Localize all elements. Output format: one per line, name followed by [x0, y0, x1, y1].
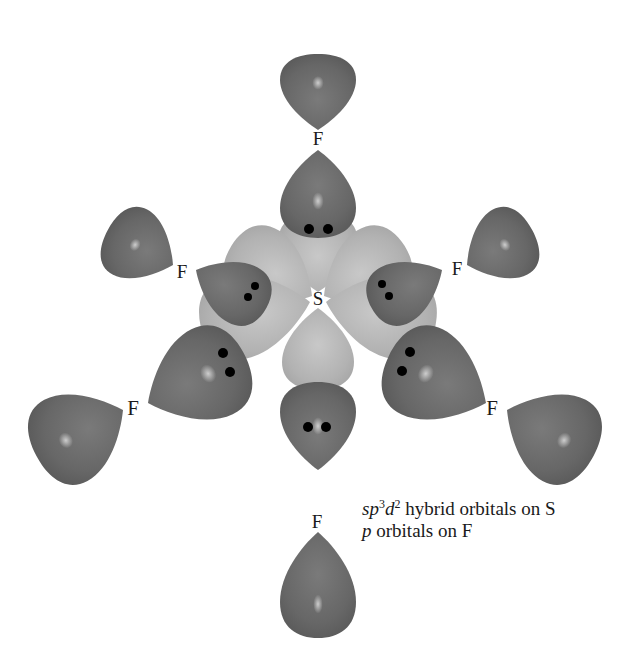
legend-line-p: p orbitals on F: [362, 520, 556, 542]
p-lobe-inner-top: [280, 150, 356, 238]
p-lobe-outer-upper-left: [90, 198, 190, 298]
legend: sp3d2 hybrid orbitals on S p orbitals on…: [362, 498, 556, 542]
legend-line-hybrid: sp3d2 hybrid orbitals on S: [362, 498, 556, 520]
legend-p-text: orbitals on F: [372, 520, 473, 541]
p-lobe-outer-lower-left: [15, 369, 145, 496]
legend-d: d: [385, 498, 395, 519]
label-s: S: [313, 288, 324, 309]
label-f-top: F: [313, 128, 324, 149]
label-f-upper-right: F: [452, 258, 463, 279]
label-f-lower-left: F: [127, 396, 139, 420]
sf6-orbital-diagram: S F F F F F F: [0, 0, 634, 656]
p-lobe-outer-upper-right: [450, 198, 550, 298]
legend-hybrid-text: hybrid orbitals on S: [400, 498, 555, 519]
p-lobe-outer-lower-right: [485, 369, 615, 496]
legend-sp: sp: [362, 498, 379, 519]
label-f-lower-right: F: [486, 396, 498, 420]
p-lobe-outer-top: [280, 54, 356, 130]
p-lobe-outer-bottom: [280, 532, 356, 638]
p-lobe-inner-bottom: [280, 382, 356, 470]
label-f-bottom: F: [312, 511, 323, 532]
label-f-upper-left: F: [177, 261, 188, 282]
legend-p: p: [362, 520, 372, 541]
